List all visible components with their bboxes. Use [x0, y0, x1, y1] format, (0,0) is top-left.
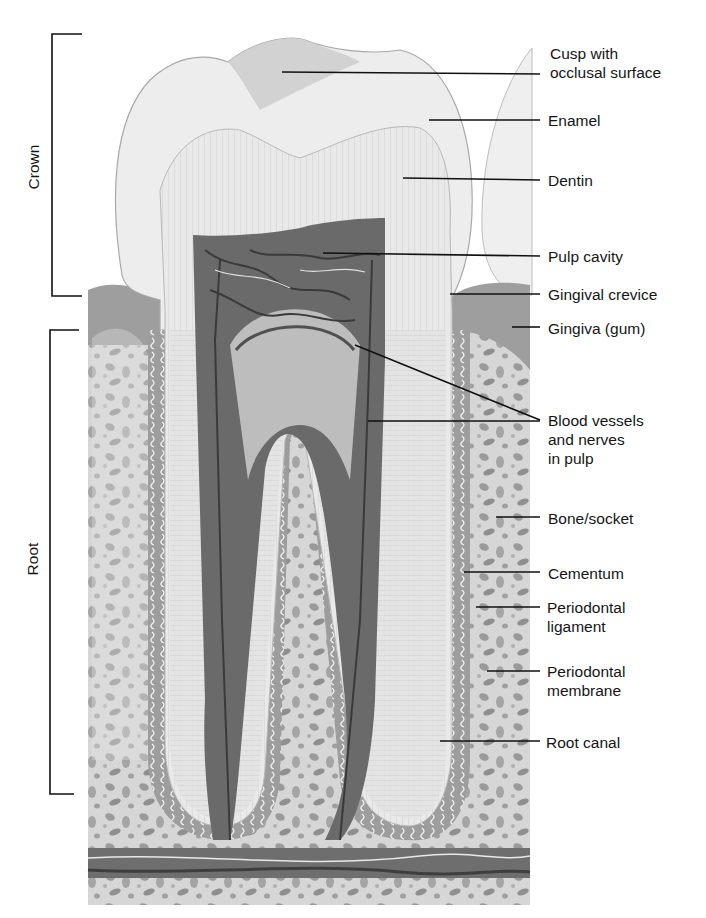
root-bracket	[50, 330, 79, 794]
label-periodontal-ligament-line1: Periodontal	[547, 598, 625, 617]
label-cusp: Cusp with occlusal surface	[550, 44, 661, 82]
label-cusp-line1: Cusp with	[550, 44, 661, 63]
label-periodontal-ligament: Periodontal ligament	[547, 598, 625, 636]
label-gingival-crevice: Gingival crevice	[548, 285, 657, 304]
crown-bracket	[52, 34, 82, 296]
label-cementum: Cementum	[548, 564, 624, 583]
label-periodontal-membrane-line1: Periodontal	[547, 662, 625, 681]
label-periodontal-membrane-line2: membrane	[547, 681, 625, 700]
label-gingiva: Gingiva (gum)	[548, 319, 645, 338]
label-periodontal-ligament-line2: ligament	[547, 617, 625, 636]
label-root-canal: Root canal	[546, 733, 620, 752]
label-periodontal-membrane: Periodontal membrane	[547, 662, 625, 700]
label-cusp-line2: occlusal surface	[550, 63, 661, 82]
root-bracket-label: Root	[24, 543, 42, 576]
label-blood-vessels-line2: and nerves	[548, 430, 644, 449]
crown-bracket-label: Crown	[25, 145, 43, 190]
label-blood-vessels-line3: in pulp	[548, 449, 644, 468]
label-dentin: Dentin	[548, 171, 593, 190]
label-pulp-cavity: Pulp cavity	[548, 247, 623, 266]
label-blood-vessels-line1: Blood vessels	[548, 411, 644, 430]
label-bone-socket: Bone/socket	[548, 509, 633, 528]
label-blood-vessels: Blood vessels and nerves in pulp	[548, 411, 644, 468]
label-enamel: Enamel	[548, 111, 601, 130]
